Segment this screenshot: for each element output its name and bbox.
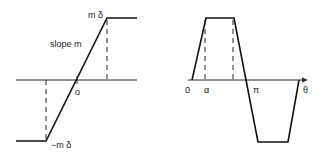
diagram-canvas: m δ slope m o −m δ 0 α π θ [0, 0, 319, 153]
saturation-characteristic: m δ slope m o −m δ [16, 10, 137, 150]
axis-arrow-icon [302, 78, 308, 83]
label-theta: θ [303, 85, 308, 95]
label-upper-level: m δ [88, 10, 103, 20]
label-lower-level: −m δ [51, 140, 71, 150]
clipped-waveform: 0 α π θ [185, 18, 308, 142]
label-origin-right: 0 [185, 85, 190, 95]
label-pi: π [253, 85, 259, 95]
label-slope: slope m [50, 39, 82, 49]
label-alpha: α [204, 85, 209, 95]
label-origin-left: o [75, 87, 80, 97]
